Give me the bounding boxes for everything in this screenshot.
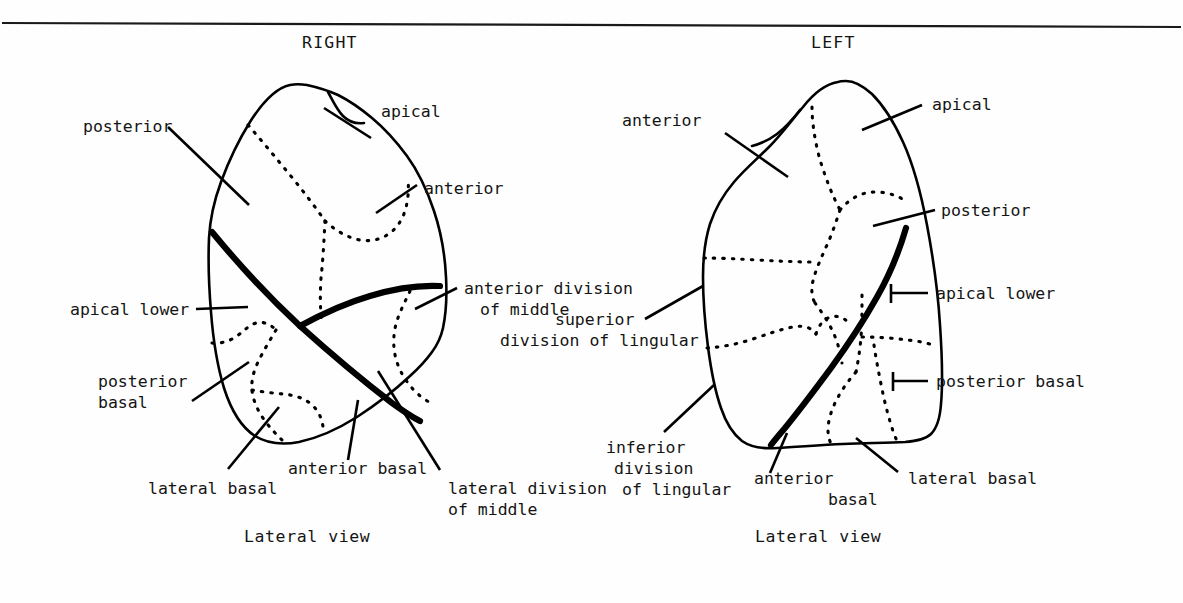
- right-lung-figure: [168, 84, 457, 470]
- panel-title-right: RIGHT: [302, 33, 358, 52]
- label-right-lateral-basal: lateral basal: [148, 478, 277, 499]
- label-left-inferior-division-of-lingular-line3: of lingular: [622, 479, 731, 500]
- label-left-inferior-division-of-lingular-line1: inferior: [606, 437, 685, 458]
- left-seg-line-upper-horizontal: [704, 258, 815, 262]
- leader-right-anterior: [376, 185, 417, 213]
- label-right-apical-lower: apical lower: [70, 299, 189, 320]
- leader-left-superior-lingular: [645, 286, 703, 319]
- right-seg-line-upper-lobe-vertical: [320, 221, 325, 324]
- right-seg-line-lower-lobe-right: [252, 390, 323, 427]
- label-right-apical: apical: [381, 101, 441, 122]
- left-lung-outline: [703, 81, 942, 448]
- label-right-anterior: anterior: [424, 178, 503, 199]
- right-seg-line-posterior-basal-hook: [212, 322, 276, 343]
- label-right-lateral-division-of-middle-line1: lateral division: [448, 478, 607, 499]
- right-lung-outline: [209, 84, 447, 443]
- label-left-inferior-division-of-lingular-line2: division: [614, 458, 693, 479]
- left-seg-line-upper-mid: [812, 210, 840, 303]
- label-right-posterior-basal-line2: basal: [98, 392, 148, 413]
- right-seg-line-apical-anterior: [325, 180, 408, 241]
- caption-left-lateral-view: Lateral view: [755, 527, 881, 546]
- top-rule: [2, 23, 1181, 27]
- left-seg-line-apical-anterior: [812, 107, 840, 210]
- leader-left-inferior-lingular: [664, 385, 714, 432]
- leader-left-apical: [862, 105, 922, 130]
- label-right-posterior: posterior: [83, 116, 172, 137]
- label-left-anterior: anterior: [622, 110, 701, 131]
- left-seg-line-basal-horizontal: [862, 337, 933, 345]
- label-left-apical-lower: apical lower: [936, 283, 1055, 304]
- leader-right-apical-lower: [196, 307, 248, 309]
- label-left-apical: apical: [932, 94, 992, 115]
- label-left-anterior-basal-line2: basal: [828, 489, 878, 510]
- label-left-lateral-basal: lateral basal: [908, 468, 1037, 489]
- left-seg-line-lingular-boundary: [707, 326, 816, 348]
- label-left-posterior: posterior: [941, 200, 1030, 221]
- right-seg-line-apical-posterior: [248, 125, 325, 221]
- label-left-superior-division-of-lingular-line1: superior: [555, 309, 634, 330]
- left-seg-line-basal-left: [828, 372, 856, 446]
- leader-right-anterior-basal: [348, 400, 358, 460]
- leader-right-posterior-basal: [192, 362, 249, 401]
- caption-right-lateral-view: Lateral view: [244, 527, 370, 546]
- left-seg-line-apical-posterior: [840, 192, 907, 210]
- label-right-anterior-division-of-middle-line1: anterior division: [464, 278, 633, 299]
- left-seg-line-basal-right: [874, 345, 899, 444]
- panel-title-left: LEFT: [811, 33, 856, 52]
- figure-canvas: RIGHT LEFT Lateral view Lateral view pos…: [0, 0, 1183, 603]
- label-right-lateral-division-of-middle-line2: of middle: [448, 499, 537, 520]
- label-left-posterior-basal: posterior basal: [936, 371, 1085, 392]
- label-left-anterior-basal-line1: anterior: [754, 468, 833, 489]
- left-lung-figure: [645, 81, 942, 473]
- label-right-anterior-basal: anterior basal: [288, 458, 427, 479]
- label-right-posterior-basal-line1: posterior: [98, 371, 187, 392]
- leader-right-ant-div-middle: [415, 288, 457, 309]
- label-left-superior-division-of-lingular-line2: division of lingular: [500, 330, 699, 351]
- left-seg-line-lingular-peak: [816, 316, 847, 334]
- leader-left-anterior: [725, 133, 788, 177]
- leader-right-lat-div-middle: [378, 371, 440, 470]
- leader-right-posterior: [168, 127, 249, 205]
